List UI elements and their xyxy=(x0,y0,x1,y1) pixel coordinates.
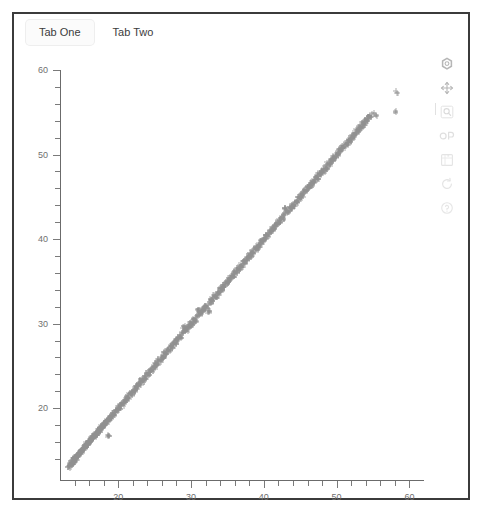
reset-axes-icon[interactable] xyxy=(437,150,457,170)
scatter-point xyxy=(285,211,290,216)
scatter-point xyxy=(279,215,284,220)
autoscale-icon[interactable] xyxy=(437,174,457,194)
scatter-point xyxy=(220,288,225,293)
scatter-point xyxy=(302,188,307,193)
scatter-point xyxy=(331,159,336,164)
scatter-point xyxy=(291,203,296,208)
scatter-point xyxy=(279,216,284,221)
scatter-point xyxy=(95,429,100,434)
scatter-point xyxy=(145,370,150,375)
y-tick-label: 20 xyxy=(22,403,48,413)
scatter-point xyxy=(358,125,363,130)
scatter-point xyxy=(260,240,265,245)
scatter-point xyxy=(324,166,329,171)
scatter-point xyxy=(246,253,251,258)
scatter-point xyxy=(238,267,243,272)
scatter-point xyxy=(84,440,89,445)
scatter-point xyxy=(243,257,248,262)
scatter-plot[interactable]: 20304050602030405060 xyxy=(14,48,468,498)
scatter-point xyxy=(323,166,328,171)
scatter-point xyxy=(164,352,169,357)
scatter-point xyxy=(321,169,326,174)
scatter-point xyxy=(317,172,322,177)
scatter-point xyxy=(198,310,203,315)
scatter-point xyxy=(92,434,97,439)
scatter-point xyxy=(135,382,140,387)
scatter-point xyxy=(365,118,370,123)
scatter-point xyxy=(351,132,356,137)
x-tick-label: 60 xyxy=(404,492,414,502)
scatter-point xyxy=(132,385,137,390)
scatter-point xyxy=(336,151,341,156)
scatter-point xyxy=(314,175,319,180)
scatter-point xyxy=(299,195,304,200)
scatter-point xyxy=(222,285,227,290)
scatter-point xyxy=(116,404,121,409)
scatter-point xyxy=(314,174,319,179)
scatter-point xyxy=(105,418,110,423)
plotly-logo-icon[interactable] xyxy=(437,54,457,74)
scatter-point xyxy=(70,462,75,467)
scatter-point xyxy=(71,457,76,462)
scatter-point xyxy=(85,440,90,445)
help-icon[interactable] xyxy=(437,198,457,218)
scatter-point xyxy=(203,303,208,308)
scatter-point xyxy=(232,274,237,279)
scatter-point xyxy=(275,218,280,223)
scatter-point xyxy=(347,138,352,143)
scatter-point xyxy=(315,171,320,176)
scatter-point xyxy=(94,431,99,436)
scatter-point xyxy=(191,318,196,323)
scatter-point xyxy=(307,184,312,189)
scatter-point xyxy=(308,184,313,189)
scatter-point xyxy=(110,412,115,417)
scatter-point xyxy=(161,355,166,360)
scatter-point xyxy=(100,425,105,430)
scatter-point xyxy=(350,134,355,139)
scatter-point xyxy=(238,263,243,268)
zoom-in-out-icon[interactable] xyxy=(437,126,457,146)
scatter-point xyxy=(243,260,248,265)
scatter-point xyxy=(123,400,128,405)
zoom-icon[interactable] xyxy=(437,102,457,122)
scatter-point xyxy=(160,354,165,359)
scatter-point xyxy=(322,168,327,173)
scatter-point xyxy=(332,156,337,161)
pan-icon[interactable] xyxy=(437,78,457,98)
scatter-point xyxy=(363,117,368,122)
scatter-point xyxy=(138,378,143,383)
scatter-point xyxy=(174,338,179,343)
scatter-point xyxy=(166,347,171,352)
scatter-point xyxy=(280,217,285,222)
scatter-point xyxy=(242,261,247,266)
scatter-point xyxy=(73,456,78,461)
scatter-point xyxy=(228,278,233,283)
tab-one[interactable]: Tab One xyxy=(26,20,94,45)
scatter-point xyxy=(149,368,154,373)
scatter-point xyxy=(325,162,330,167)
scatter-point xyxy=(125,395,130,400)
scatter-point xyxy=(141,380,146,385)
scatter-point xyxy=(270,225,275,230)
scatter-point xyxy=(278,220,283,225)
scatter-point xyxy=(198,311,203,316)
scatter-point xyxy=(260,237,265,242)
scatter-point xyxy=(230,274,235,279)
scatter-point xyxy=(98,425,103,430)
scatter-point xyxy=(177,333,182,338)
tab-two[interactable]: Tab Two xyxy=(100,20,167,45)
modebar[interactable] xyxy=(436,54,458,218)
scatter-point xyxy=(141,378,146,383)
plot-data-area[interactable] xyxy=(60,70,424,480)
scatter-point xyxy=(181,324,186,329)
scatter-point xyxy=(95,427,100,432)
scatter-point xyxy=(186,325,191,330)
scatter-point xyxy=(125,395,130,400)
scatter-point xyxy=(106,417,111,422)
scatter-point xyxy=(365,118,370,123)
scatter-point xyxy=(323,167,328,172)
scatter-point xyxy=(152,360,157,365)
scatter-point xyxy=(225,280,230,285)
scatter-point xyxy=(100,423,105,428)
scatter-point xyxy=(319,168,324,173)
